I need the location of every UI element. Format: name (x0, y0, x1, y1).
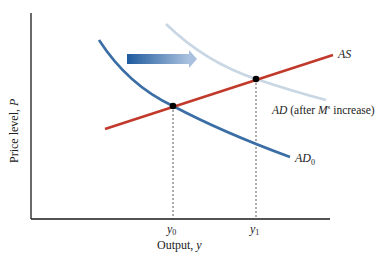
equilibrium-point-new (253, 76, 260, 83)
y0-tick-label: y0 (166, 222, 176, 237)
equilibrium-point-initial (170, 103, 177, 110)
as-label: AS (337, 47, 351, 61)
shift-arrow-icon (127, 50, 197, 68)
ad1-label: AD (after Ms increase) (271, 103, 375, 117)
x-axis-label: Output, y (157, 238, 202, 252)
ad-as-diagram: AS AD (after Ms increase) AD0 y0 y1 Outp… (0, 0, 390, 258)
ad0-label: AD0 (294, 151, 315, 167)
y-axis-label: Price level, P (7, 98, 21, 163)
y1-tick-label: y1 (249, 222, 259, 237)
